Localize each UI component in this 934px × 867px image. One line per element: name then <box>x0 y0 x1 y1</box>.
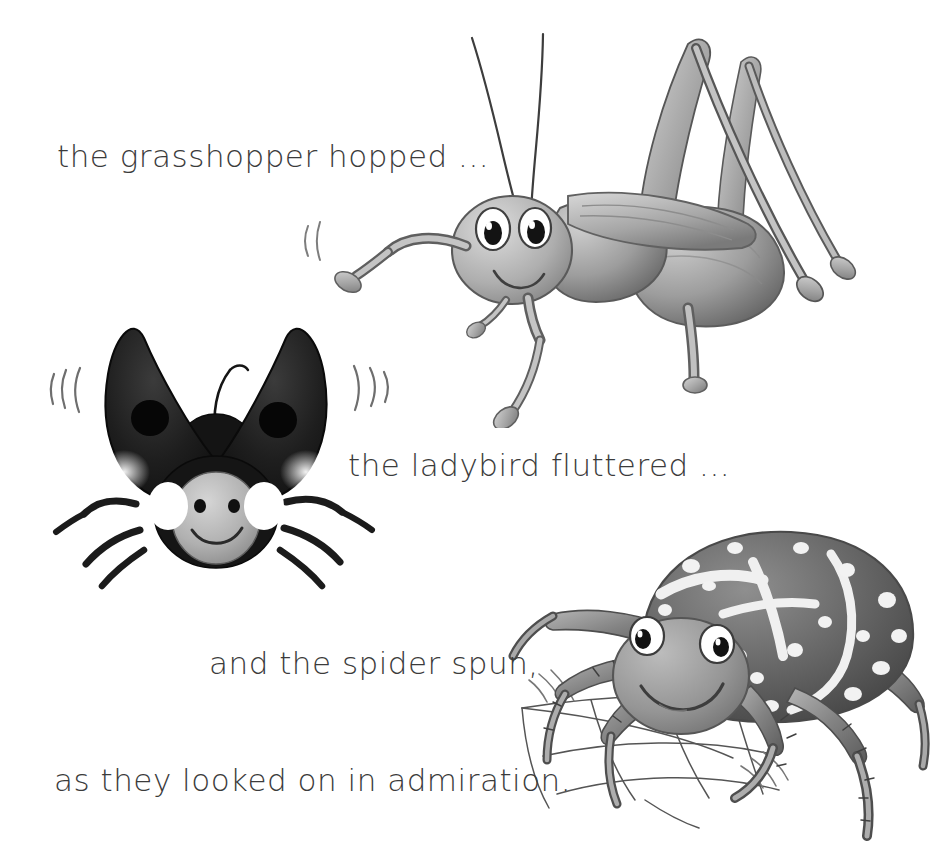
spider-eye-left <box>630 617 664 655</box>
story-line-grasshopper: the grasshopper hopped ... <box>57 138 489 174</box>
spider-head <box>613 617 749 734</box>
ladybird-illustration <box>40 322 400 592</box>
spider-eye-right <box>700 625 734 663</box>
ladybird-cheek-left <box>148 482 188 530</box>
ladybird-eye-left <box>194 499 206 513</box>
ladybird-highlight-right <box>280 450 332 494</box>
ladybird-eye-right <box>228 499 240 513</box>
story-line-admiration: as they looked on in admiration. <box>54 762 571 798</box>
grasshopper-antennae <box>472 34 543 217</box>
grasshopper-motion-arcs <box>305 222 320 260</box>
grasshopper-head <box>452 196 572 304</box>
ladybird-spot-right <box>259 402 297 438</box>
spider-illustration <box>495 508 934 860</box>
story-line-spider: and the spider spun, <box>209 645 539 681</box>
ladybird-motion-left <box>51 368 80 412</box>
grasshopper-eye-left <box>476 208 510 250</box>
storybook-page: the grasshopper hopped ... the ladybird … <box>0 0 934 867</box>
grasshopper-eye-right <box>519 208 551 248</box>
ladybird-highlight-left <box>98 450 150 494</box>
ladybird-cheek-right <box>244 482 284 530</box>
story-line-ladybird: the ladybird fluttered ... <box>348 447 730 483</box>
ladybird-spot-left <box>131 400 169 436</box>
ladybird-motion-right <box>354 366 388 410</box>
grasshopper-front-leg <box>331 238 466 296</box>
grasshopper-palp <box>464 300 506 341</box>
